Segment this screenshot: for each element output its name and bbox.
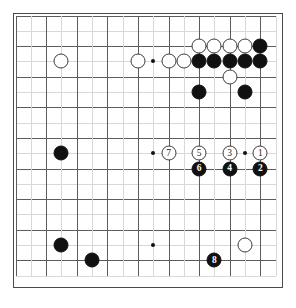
- black-stone[interactable]: [238, 54, 253, 69]
- move-number: 1: [258, 148, 263, 158]
- black-stone[interactable]: [222, 54, 237, 69]
- grid-line-horizontal: [16, 260, 276, 261]
- grid-line-vertical: [153, 16, 154, 276]
- white-stone[interactable]: [222, 69, 237, 84]
- move-stone-2[interactable]: 2: [253, 161, 268, 176]
- black-stone[interactable]: [85, 253, 100, 268]
- grid-line-vertical: [77, 16, 78, 276]
- grid-line-vertical: [46, 16, 47, 276]
- grid-line-vertical: [276, 16, 277, 276]
- black-stone[interactable]: [253, 54, 268, 69]
- move-number: 3: [227, 148, 232, 158]
- black-stone[interactable]: [192, 54, 207, 69]
- white-stone[interactable]: [192, 39, 207, 54]
- grid-line-vertical: [123, 16, 124, 276]
- grid-line-horizontal: [16, 214, 276, 215]
- white-stone[interactable]: [238, 39, 253, 54]
- star-point: [151, 243, 155, 247]
- grid-line-vertical: [92, 16, 93, 276]
- star-point: [151, 151, 155, 155]
- black-stone[interactable]: [54, 146, 69, 161]
- grid-line-horizontal: [16, 138, 276, 139]
- white-stone[interactable]: [222, 39, 237, 54]
- star-point: [243, 151, 247, 155]
- grid-line-vertical: [31, 16, 32, 276]
- white-stone[interactable]: [207, 39, 222, 54]
- white-stone[interactable]: [130, 54, 145, 69]
- move-stone-1[interactable]: 1: [253, 146, 268, 161]
- grid-line-horizontal: [16, 16, 276, 17]
- grid-line-horizontal: [16, 184, 276, 185]
- grid-line-horizontal: [16, 31, 276, 32]
- black-stone[interactable]: [54, 238, 69, 253]
- grid-line-horizontal: [16, 230, 276, 231]
- move-number: 6: [197, 164, 202, 174]
- move-stone-7[interactable]: 7: [161, 146, 176, 161]
- white-stone[interactable]: [54, 54, 69, 69]
- go-diagram: 75316428: [0, 0, 296, 308]
- move-number: 4: [227, 164, 232, 174]
- move-number: 2: [258, 164, 263, 174]
- grid-line-horizontal: [16, 123, 276, 124]
- move-stone-3[interactable]: 3: [222, 146, 237, 161]
- grid-line-vertical: [107, 16, 108, 276]
- white-stone[interactable]: [176, 54, 191, 69]
- move-stone-8[interactable]: 8: [207, 253, 222, 268]
- move-number: 5: [197, 148, 202, 158]
- grid-line-vertical: [16, 16, 17, 276]
- white-stone[interactable]: [161, 54, 176, 69]
- grid-line-horizontal: [16, 276, 276, 277]
- move-number: 8: [212, 256, 217, 266]
- grid-line-horizontal: [16, 107, 276, 108]
- black-stone[interactable]: [253, 39, 268, 54]
- black-stone[interactable]: [207, 54, 222, 69]
- grid-line-horizontal: [16, 199, 276, 200]
- move-stone-4[interactable]: 4: [222, 161, 237, 176]
- white-stone[interactable]: [238, 238, 253, 253]
- black-stone[interactable]: [192, 85, 207, 100]
- star-point: [151, 59, 155, 63]
- black-stone[interactable]: [238, 85, 253, 100]
- move-stone-6[interactable]: 6: [192, 161, 207, 176]
- move-number: 7: [166, 148, 171, 158]
- move-stone-5[interactable]: 5: [192, 146, 207, 161]
- go-board[interactable]: 75316428: [13, 13, 283, 288]
